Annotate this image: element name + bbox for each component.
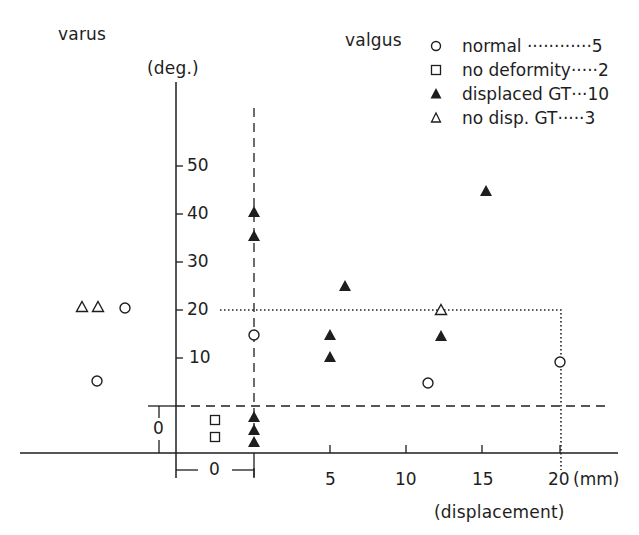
- x-tick-label: 5: [325, 469, 336, 489]
- y-tick-label: 10: [189, 347, 211, 367]
- x-zero-label: 0: [209, 459, 220, 479]
- scatter-plot: [0, 0, 639, 535]
- valgus-points: [248, 185, 565, 388]
- y-tick-label: 50: [187, 155, 209, 175]
- y-ticks: [176, 166, 183, 358]
- x-tick-label: 15: [472, 469, 494, 489]
- dotted-reference-line: [220, 310, 561, 470]
- x-axis-title: (displacement): [434, 502, 565, 522]
- y-tick-label: 40: [187, 203, 209, 223]
- y-zero-label: 0: [153, 418, 164, 438]
- y-tick-label: 20: [187, 299, 209, 319]
- varus-points: [77, 302, 131, 387]
- x-unit-label: (mm): [573, 469, 619, 489]
- x-tick-label: 20: [548, 469, 570, 489]
- zero-region-points: [211, 411, 261, 447]
- y-tick-label: 30: [187, 251, 209, 271]
- x-ticks: [330, 445, 560, 453]
- x-tick-label: 10: [395, 469, 417, 489]
